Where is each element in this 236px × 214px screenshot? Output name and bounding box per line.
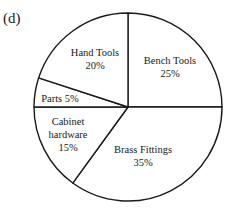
pie-slices [34, 13, 222, 201]
panel-label: (d) [3, 10, 21, 27]
pie-chart: (d) Bench Tools25%Brass Fittings35%Cabin… [0, 0, 236, 214]
slice-label-parts: Parts 5% [41, 93, 79, 104]
